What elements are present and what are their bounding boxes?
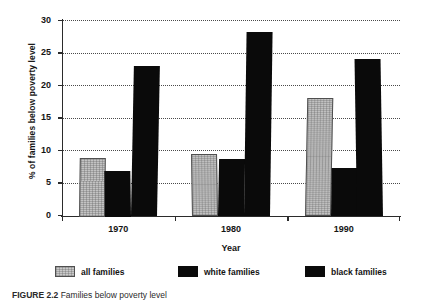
y-axis-tick: 10: [58, 150, 63, 151]
x-axis-tick: [399, 216, 400, 221]
x-axis-tick: [175, 216, 176, 221]
bar-1990-white-families: [331, 168, 358, 216]
y-axis-tick: 5: [58, 182, 63, 183]
y-axis-tick: 25: [58, 52, 63, 53]
legend-label: white families: [204, 267, 260, 277]
x-axis-tick: [62, 216, 63, 221]
x-axis-label-1980: 1980: [221, 224, 241, 234]
y-axis-tick-label: 5: [46, 177, 51, 187]
legend-swatch-black: [178, 266, 198, 277]
gridline: [63, 53, 400, 54]
y-axis-tick-label: 10: [41, 145, 51, 155]
gridline: [63, 118, 400, 119]
plot-area: 051015202530 197019801990: [62, 21, 400, 216]
bar-1970-all-families: [79, 158, 106, 217]
gridline: [63, 85, 400, 86]
legend-item-all-families: all families: [55, 266, 124, 277]
y-axis-title: % of families below poverty level: [27, 16, 37, 206]
y-axis-tick-label: 0: [46, 210, 51, 220]
bar-1970-black-families: [131, 66, 160, 216]
legend-label: all families: [81, 267, 124, 277]
figure-caption-text: FIGURE 2.2 Families below poverty level: [12, 290, 412, 300]
x-axis-tick: [287, 216, 288, 221]
y-axis-tick: 15: [58, 117, 63, 118]
legend-swatch-black: [305, 266, 325, 277]
y-axis-tick-label: 15: [41, 112, 51, 122]
legend-item-white-families: white families: [178, 266, 260, 277]
y-axis-tick: 20: [58, 85, 63, 86]
figure-caption-prefix: FIGURE 2.2: [12, 290, 58, 300]
figure-container: % of families below poverty level 051015…: [0, 0, 422, 300]
legend-swatch-gray: [55, 266, 75, 277]
y-axis-tick: 30: [58, 20, 63, 21]
y-axis-tick-label: 20: [41, 80, 51, 90]
figure-caption-body: Families below poverty level: [61, 290, 167, 300]
y-axis-tick-label: 30: [41, 15, 51, 25]
bar-1990-all-families: [305, 98, 333, 216]
figure-caption: FIGURE 2.2 Families below poverty level: [12, 290, 412, 300]
x-axis-label-1970: 1970: [108, 224, 128, 234]
x-axis-title: Year: [62, 243, 400, 253]
bar-1980-all-families: [191, 154, 218, 216]
chart-legend: all familieswhite familiesblack families: [55, 266, 405, 282]
gridline: [63, 150, 400, 151]
legend-item-black-families: black families: [305, 266, 387, 277]
gridline: [63, 20, 400, 21]
x-axis-label-1990: 1990: [334, 224, 354, 234]
bar-1980-black-families: [244, 32, 273, 216]
y-axis-tick-label: 25: [41, 47, 51, 57]
bar-1980-white-families: [218, 159, 245, 216]
y-axis-line: [62, 19, 63, 218]
legend-label: black families: [331, 267, 387, 277]
bar-1970-white-families: [105, 171, 132, 217]
bar-1990-black-families: [354, 59, 382, 216]
